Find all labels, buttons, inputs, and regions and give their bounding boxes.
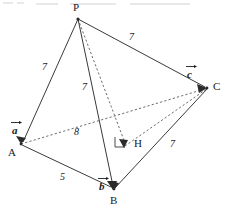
arrowhead-vector-a-at-A xyxy=(16,136,26,144)
vertex-label-P: P xyxy=(73,2,79,13)
length-label-AB: 5 xyxy=(60,172,65,182)
geometry-figure: P A B C H 7 7 7 8 5 7 a b c xyxy=(0,0,228,211)
length-label-BC: 7 xyxy=(170,139,175,149)
edge-PB xyxy=(78,19,113,186)
vertex-dot-P xyxy=(76,17,79,20)
vector-glyph-a: a xyxy=(12,124,18,136)
vertex-label-C: C xyxy=(213,81,220,92)
length-label-PC: 7 xyxy=(129,32,134,42)
vector-glyph-c: c xyxy=(187,68,192,80)
vector-glyph-b: b xyxy=(99,180,105,192)
edge-PC xyxy=(78,19,205,87)
length-label-PB: 7 xyxy=(82,82,87,92)
vertex-label-B: B xyxy=(110,195,117,206)
edge-BC xyxy=(114,89,207,189)
vertex-label-H: H xyxy=(134,138,142,149)
tetrahedron-drawing xyxy=(0,0,228,211)
vertex-label-A: A xyxy=(8,147,16,158)
edge-AC xyxy=(21,88,208,144)
length-label-AC: 8 xyxy=(74,127,79,137)
length-label-PA: 7 xyxy=(42,62,47,72)
edge-PA xyxy=(23,19,78,142)
